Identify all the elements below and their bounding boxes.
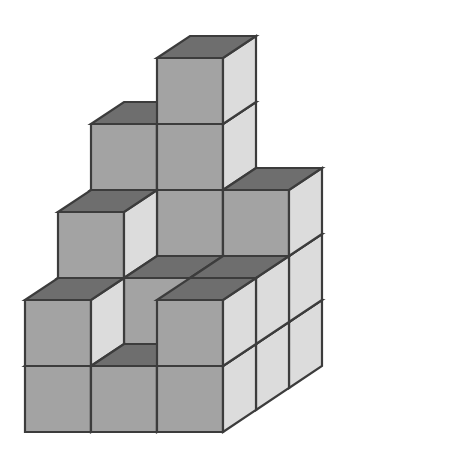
cube-left-face bbox=[58, 212, 124, 278]
cube-left-face bbox=[91, 366, 157, 432]
cube-left-face bbox=[157, 124, 223, 190]
cube-layer bbox=[25, 36, 322, 432]
cube-left-face bbox=[25, 366, 91, 432]
cube-left-face bbox=[25, 300, 91, 366]
cube-left-face bbox=[157, 366, 223, 432]
cube-left-face bbox=[223, 190, 289, 256]
cube-left-face bbox=[157, 300, 223, 366]
isometric-structure bbox=[0, 0, 449, 465]
cube-left-face bbox=[91, 124, 157, 190]
figure-canvas bbox=[0, 0, 449, 465]
cube-left-face bbox=[157, 58, 223, 124]
cube-left-face bbox=[157, 190, 223, 256]
